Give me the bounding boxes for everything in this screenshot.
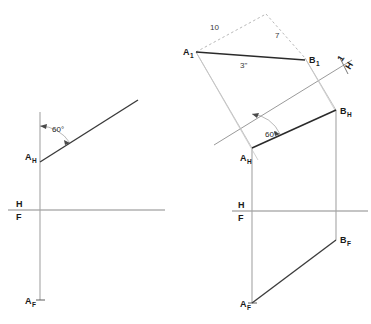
left-label-af-sub: F — [32, 301, 36, 308]
right-label-bh: B — [340, 106, 347, 116]
right-label-bf-sub: F — [347, 240, 351, 247]
left-view-group: A H A F H F 60° — [8, 100, 165, 308]
right-dim-side-7 — [266, 14, 305, 58]
left-label-af: A — [25, 296, 32, 306]
right-true-length-line-a1b1 — [196, 52, 305, 60]
right-label-af-sub: F — [247, 304, 251, 311]
right-dim-label-3in: 3" — [240, 61, 247, 70]
right-dim-side-10 — [196, 14, 266, 52]
right-label-bf: B — [340, 235, 347, 245]
right-label-fold-1h: H — [343, 60, 355, 71]
right-label-af: A — [240, 299, 247, 309]
left-angle-arrow-top — [40, 124, 47, 129]
left-label-fold-h: H — [16, 199, 23, 209]
right-front-view-line-afbf — [252, 240, 336, 303]
right-label-b1: B — [309, 55, 316, 65]
technical-drawing-canvas: A H A F H F 60° — [0, 0, 371, 324]
left-label-ah: A — [25, 152, 32, 162]
right-label-a1-sub: 1 — [190, 52, 194, 59]
left-label-ah-sub: H — [32, 157, 37, 164]
right-label-fold-h: H — [238, 200, 245, 210]
right-dim-label-7: 7 — [275, 31, 280, 40]
right-label-b1-sub: 1 — [316, 60, 320, 67]
left-label-angle: 60° — [52, 125, 64, 134]
right-label-angle: 60° — [265, 130, 277, 139]
right-label-ah-sub: H — [247, 158, 252, 165]
right-construction-b1-lower — [305, 58, 336, 112]
right-label-a1: A — [183, 47, 190, 57]
left-label-fold-f: F — [16, 212, 22, 222]
right-construction-a1-lower — [196, 52, 258, 160]
right-label-fold-f: F — [238, 213, 244, 223]
right-top-view-line-ahbh — [252, 110, 336, 148]
right-label-bh-sub: H — [347, 111, 352, 118]
right-dim-label-10: 10 — [210, 23, 219, 32]
right-label-ah: A — [240, 153, 247, 163]
right-angle-arrow-top — [252, 113, 259, 118]
right-view-group: A 1 B 1 A H B H A F B F H F 1 H 10 7 3" … — [183, 14, 368, 311]
